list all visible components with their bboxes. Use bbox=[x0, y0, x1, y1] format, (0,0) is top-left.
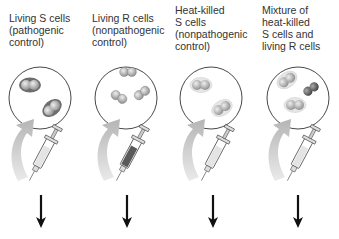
petri-dish-icon bbox=[180, 67, 242, 129]
killed-s-cell-pair bbox=[284, 98, 306, 113]
killed-s-cell-pair bbox=[190, 78, 212, 93]
down-arrow-icon bbox=[36, 195, 46, 228]
curved-arrow-icon bbox=[12, 119, 34, 181]
petri-dish-icon bbox=[9, 67, 71, 129]
panel-3 bbox=[180, 67, 242, 228]
down-arrow-icon bbox=[208, 195, 218, 228]
s-cell-pair bbox=[19, 78, 41, 93]
diagram-canvas bbox=[0, 0, 339, 239]
down-arrow-icon bbox=[293, 195, 303, 228]
down-arrow-icon bbox=[122, 195, 132, 228]
curved-arrow-icon bbox=[183, 119, 205, 181]
panel-2 bbox=[95, 67, 157, 228]
curved-arrow-icon bbox=[98, 119, 120, 181]
panel-1 bbox=[9, 67, 71, 228]
panel-4 bbox=[267, 67, 329, 228]
curved-arrow-icon bbox=[269, 119, 291, 181]
